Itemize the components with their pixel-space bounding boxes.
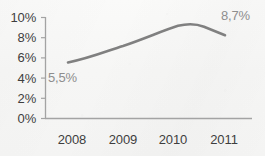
y-tick-label-2: 2%: [0, 92, 36, 105]
line-chart: 10% 8% 6% 4% 2% 0% 2008 2009 2010 2011 5…: [0, 0, 265, 156]
x-tick-label-2010: 2010: [148, 133, 198, 146]
y-tick-label-10: 10%: [0, 11, 36, 24]
y-tick-label-8: 8%: [0, 31, 36, 44]
y-tick-label-6: 6%: [0, 51, 36, 64]
x-tick-label-2009: 2009: [98, 133, 148, 146]
y-tick-label-4: 4%: [0, 72, 36, 85]
data-label-start: 5,5%: [48, 71, 77, 84]
x-tick-label-2008: 2008: [47, 133, 97, 146]
y-tick-label-0: 0%: [0, 112, 36, 125]
y-axis-ticks: [41, 18, 46, 119]
data-label-end: 8,7%: [221, 9, 250, 22]
data-series-line: [68, 24, 225, 62]
x-tick-label-2011: 2011: [199, 133, 249, 146]
